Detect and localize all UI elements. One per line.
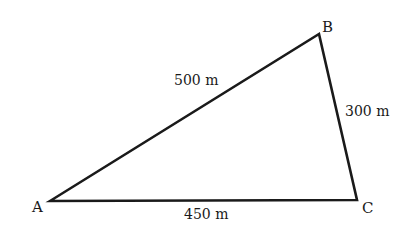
vertex-label-b: B xyxy=(322,18,333,36)
triangle-diagram: A B C 500 m 300 m 450 m xyxy=(0,0,417,238)
side-label-ab: 500 m xyxy=(174,72,218,88)
vertex-label-c: C xyxy=(362,199,373,217)
vertex-label-a: A xyxy=(31,198,43,216)
side-label-ac: 450 m xyxy=(184,206,228,222)
triangle-abc xyxy=(50,34,357,201)
side-label-bc: 300 m xyxy=(345,103,389,119)
